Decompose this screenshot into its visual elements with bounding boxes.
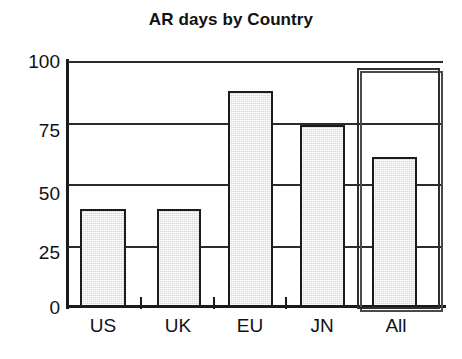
y-tick-label-0: 0 bbox=[8, 298, 60, 317]
y-tick-label-75: 75 bbox=[8, 121, 60, 140]
x-tick-1 bbox=[140, 297, 142, 309]
x-tick-label-JN: JN bbox=[287, 316, 357, 335]
y-tick-label-25: 25 bbox=[8, 243, 60, 262]
bar-EU[interactable] bbox=[228, 91, 273, 308]
x-tick-label-UK: UK bbox=[143, 316, 213, 335]
bar-UK[interactable] bbox=[157, 209, 201, 307]
bar-chart: AR days by Country 100 75 50 25 0 US UK … bbox=[0, 0, 462, 359]
plot-area bbox=[68, 61, 443, 307]
y-tick-label-100: 100 bbox=[8, 52, 60, 71]
x-tick-4 bbox=[357, 297, 359, 309]
bar-All[interactable] bbox=[372, 157, 417, 307]
x-tick-label-US: US bbox=[68, 316, 138, 335]
x-tick-label-All: All bbox=[361, 316, 431, 335]
chart-title: AR days by Country bbox=[0, 10, 462, 30]
y-tick-label-50: 50 bbox=[8, 184, 60, 203]
bar-US[interactable] bbox=[80, 209, 126, 307]
x-tick-3 bbox=[285, 297, 287, 309]
bar-JN[interactable] bbox=[300, 125, 345, 307]
x-tick-label-EU: EU bbox=[215, 316, 285, 335]
x-tick-2 bbox=[213, 297, 215, 309]
gridline-100 bbox=[68, 61, 443, 63]
